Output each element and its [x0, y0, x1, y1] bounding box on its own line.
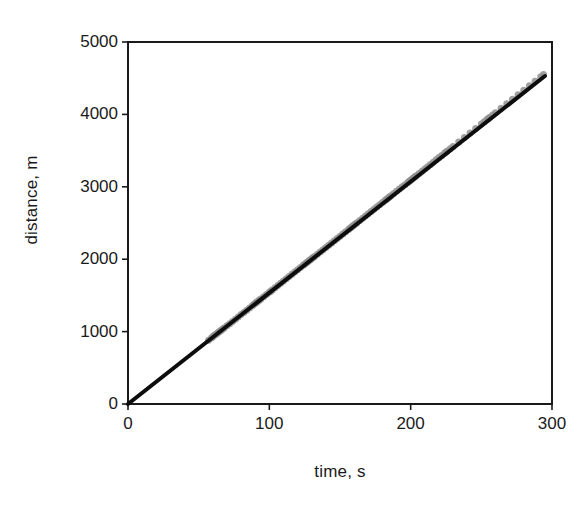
plot-frame: [128, 42, 552, 404]
plot-area: [0, 0, 587, 508]
chart-figure: distance, m 0 1000 2000 3000 4000 5000 0…: [0, 0, 587, 508]
